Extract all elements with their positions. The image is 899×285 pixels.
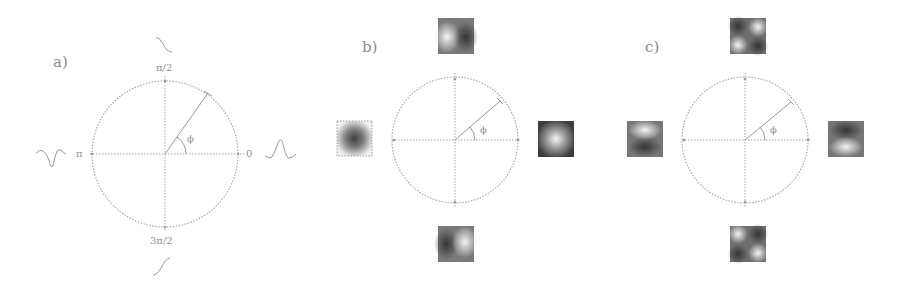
- radius-vector: [455, 101, 500, 140]
- radius-tick: [204, 91, 212, 96]
- axis-label-left: π: [76, 149, 83, 159]
- waveform-peak-icon: [265, 140, 296, 158]
- thumbnail-right: [538, 121, 574, 157]
- thumbnail-right: [828, 120, 864, 157]
- thumbnail-left: [337, 121, 372, 156]
- thumbnail-top: [434, 18, 478, 54]
- waveform-step-down-icon: [156, 37, 172, 52]
- axis-label-bottom: 3π/2: [150, 236, 173, 246]
- angle-label-phi: ϕ: [480, 125, 487, 135]
- axis-label-top: π/2: [156, 63, 172, 73]
- thumbnail-top: [728, 16, 768, 56]
- thumbnail-bottom: [728, 224, 768, 264]
- thumbnail-bottom: [434, 226, 478, 262]
- thumbnail-left: [627, 120, 663, 157]
- angle-arc: [760, 127, 765, 140]
- radius-vector: [165, 93, 208, 154]
- figure-phase-diagrams: a) π/2 π 0 3π/2 ϕ b) ϕ c) ϕ: [0, 0, 899, 285]
- panel-label-a: a): [53, 55, 68, 70]
- waveform-dip-icon: [36, 150, 66, 167]
- panel-label-b: b): [362, 40, 377, 55]
- angle-label-phi: ϕ: [770, 125, 777, 135]
- radius-vector: [745, 102, 791, 140]
- waveform-step-up-icon: [153, 258, 170, 275]
- angle-label-phi: ϕ: [187, 134, 194, 144]
- axis-label-right: 0: [246, 149, 252, 159]
- angle-arc: [177, 137, 186, 154]
- angle-arc: [470, 127, 475, 140]
- diagram-canvas: [0, 0, 899, 285]
- panel-label-c: c): [645, 40, 659, 55]
- panel-c: [627, 16, 864, 264]
